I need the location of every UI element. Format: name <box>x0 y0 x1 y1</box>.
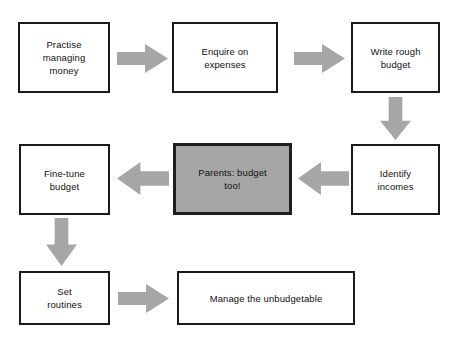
node-set-routines[interactable]: Set routines <box>19 271 110 325</box>
node-parents-budget-too[interactable]: Parents: budget too! <box>173 143 292 215</box>
node-label: Set routines <box>47 285 82 311</box>
node-label: Practise managing money <box>43 38 86 77</box>
arrow-down-icon <box>46 218 77 266</box>
node-label: Enquire on expenses <box>202 45 249 71</box>
node-label: Fine-tune budget <box>44 167 85 193</box>
arrow-left-icon <box>117 162 169 195</box>
arrow-down-icon <box>380 97 411 140</box>
node-enquire-on-expenses[interactable]: Enquire on expenses <box>172 22 278 93</box>
node-identify-incomes[interactable]: Identify incomes <box>351 144 440 215</box>
node-practise-managing-money[interactable]: Practise managing money <box>18 22 110 93</box>
arrow-right-icon <box>118 284 169 313</box>
node-label: Manage the unbudgetable <box>210 292 323 305</box>
arrow-right-icon <box>294 44 345 73</box>
node-label: Identify incomes <box>377 167 413 193</box>
node-label: Parents: budget too! <box>198 166 267 192</box>
node-fine-tune-budget[interactable]: Fine-tune budget <box>19 144 110 215</box>
flowchart-canvas: Practise managing moneyEnquire on expens… <box>0 0 455 346</box>
node-write-rough-budget[interactable]: Write rough budget <box>351 22 440 93</box>
node-manage-the-unbudgetable[interactable]: Manage the unbudgetable <box>177 271 355 325</box>
node-label: Write rough budget <box>370 45 420 71</box>
arrow-right-icon <box>117 44 168 73</box>
arrow-left-icon <box>298 162 349 195</box>
